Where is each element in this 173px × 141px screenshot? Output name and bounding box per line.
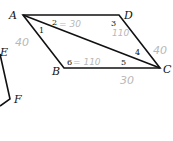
angle-label-6: 6 [67, 58, 72, 67]
vertex-label-b: B [51, 65, 60, 78]
vertex-label-a: A [8, 9, 17, 22]
angle-label-5: 5 [121, 58, 126, 67]
angle-label-2: 2 [52, 18, 57, 27]
vertex-label-e: E [0, 46, 8, 59]
geometry-diagram: E F A D C B 1 2 3 4 5 6 = 30 110 = 110 4… [0, 0, 173, 141]
angle-label-3: 3 [111, 19, 116, 28]
partial-figure-ef [0, 54, 10, 106]
annotation-angle2: = 30 [59, 19, 81, 29]
vertex-label-f: F [13, 93, 22, 106]
annotation-angle6: = 110 [73, 57, 101, 67]
angle-label-4: 4 [135, 48, 140, 57]
vertex-label-d: D [123, 9, 133, 22]
annotation-angle3: 110 [112, 28, 129, 38]
angle-label-1: 1 [39, 26, 44, 35]
annotation-side-bc: 30 [120, 74, 134, 87]
annotation-side-dc: 40 [153, 44, 167, 57]
vertex-label-c: C [163, 63, 172, 76]
annotation-side-ab: 40 [15, 36, 29, 49]
